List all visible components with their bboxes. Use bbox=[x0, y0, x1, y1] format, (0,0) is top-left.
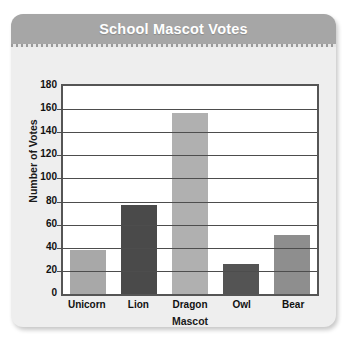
gridline bbox=[63, 271, 317, 272]
y-axis-tick-label: 60 bbox=[29, 217, 57, 228]
y-axis-tick-label: 20 bbox=[29, 263, 57, 274]
bar bbox=[274, 235, 310, 294]
gridline bbox=[63, 178, 317, 179]
y-axis-tick-label: 40 bbox=[29, 240, 57, 251]
gridline bbox=[63, 155, 317, 156]
bar bbox=[121, 205, 157, 294]
y-axis-tick-label: 80 bbox=[29, 194, 57, 205]
gridline bbox=[63, 109, 317, 110]
y-axis-tick bbox=[57, 109, 63, 110]
x-axis-tick-label: Owl bbox=[216, 299, 268, 310]
y-axis-tick bbox=[57, 155, 63, 156]
y-axis-tick bbox=[57, 178, 63, 179]
gridline bbox=[63, 248, 317, 249]
y-axis-tick bbox=[57, 202, 63, 203]
page-title: School Mascot Votes bbox=[99, 21, 248, 37]
y-axis-tick bbox=[57, 132, 63, 133]
y-axis-tick-label: 140 bbox=[29, 125, 57, 136]
chart-card: School Mascot Votes Number of Votes 1801… bbox=[11, 14, 336, 327]
x-axis-title: Mascot bbox=[61, 315, 319, 327]
bar bbox=[70, 250, 106, 294]
gridline bbox=[63, 225, 317, 226]
y-axis-tick-label: 120 bbox=[29, 148, 57, 159]
plot-area bbox=[61, 84, 319, 296]
y-axis-tick bbox=[57, 225, 63, 226]
x-axis-tick-labels: UnicornLionDragonOwlBear bbox=[61, 299, 319, 310]
x-axis-tick-label: Dragon bbox=[164, 299, 216, 310]
y-axis-tick-label: 180 bbox=[29, 79, 57, 90]
y-axis-tick bbox=[57, 271, 63, 272]
gridline bbox=[63, 132, 317, 133]
y-axis-tick-label: 100 bbox=[29, 171, 57, 182]
bar-chart: Number of Votes 180160140120100806040200… bbox=[11, 47, 336, 327]
bar bbox=[172, 113, 208, 294]
bar-series bbox=[63, 86, 317, 294]
x-axis-tick-label: Unicorn bbox=[61, 299, 113, 310]
x-axis-tick-label: Lion bbox=[113, 299, 165, 310]
card-header: School Mascot Votes bbox=[11, 14, 336, 44]
gridline bbox=[63, 202, 317, 203]
y-axis-tick-labels: 180160140120100806040200 bbox=[29, 84, 57, 296]
y-axis-tick-label: 160 bbox=[29, 102, 57, 113]
x-axis-tick-label: Bear bbox=[267, 299, 319, 310]
y-axis-tick-label: 0 bbox=[29, 287, 57, 298]
screenshot-root: School Mascot Votes Number of Votes 1801… bbox=[0, 0, 353, 342]
bar bbox=[223, 264, 259, 294]
y-axis-tick bbox=[57, 248, 63, 249]
